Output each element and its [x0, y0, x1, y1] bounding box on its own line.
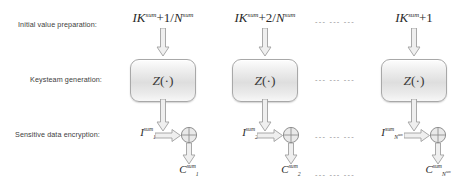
ellipsis-row-keystream: --- --- ---	[315, 75, 355, 84]
iv-numerator-col-n: 1	[426, 10, 433, 25]
iv-base-col-n: IK	[395, 10, 408, 25]
ciphertext-label-col-2: Csum2	[281, 163, 300, 177]
iv-base-sup-col-2: sum	[248, 11, 259, 18]
row-label-sensitive-data-encryption: Sensitive data encryption:	[15, 130, 100, 139]
ciphertext-label-col-n: CsumNsum	[425, 163, 450, 177]
diagram-canvas: Initial value preparation: Keysteam gene…	[0, 0, 466, 188]
xor-gate-col-n[interactable]	[430, 126, 447, 143]
iv-base-sup-col-n: sum	[408, 11, 419, 18]
initial-value-formula-col-1: IKsum+1/Nsum	[133, 10, 194, 26]
ellipsis-row-xor: --- --- ---	[315, 132, 355, 141]
keystream-block-col-2[interactable]: Z(·)	[232, 59, 298, 102]
keystream-block-label-col-1: Z(·)	[152, 73, 173, 89]
keystream-block-label-col-n: Z(·)	[403, 73, 424, 89]
row-label-initial-value-preparation: Initial value preparation:	[18, 20, 97, 29]
iv-base-sup-col-1: sum	[146, 11, 157, 18]
xor-gate-col-1[interactable]	[181, 126, 198, 143]
down-arrow-iv-to-block-col-1	[157, 28, 170, 61]
down-arrow-iv-to-block-col-2	[259, 28, 272, 61]
keystream-block-label-col-2: Z(·)	[254, 73, 275, 89]
xor-gate-col-2[interactable]	[283, 126, 300, 143]
iv-denominator-col-1: N	[174, 10, 183, 25]
iv-base-col-1: IK	[133, 10, 146, 25]
right-arrow-plaintext-to-xor-col-2	[257, 128, 283, 146]
right-arrow-plaintext-to-xor-col-1	[155, 128, 181, 146]
iv-denominator-col-2: N	[276, 10, 285, 25]
iv-base-col-2: IK	[235, 10, 248, 25]
right-arrow-plaintext-to-xor-col-n	[404, 128, 430, 146]
iv-denominator-sup-col-1: sum	[183, 11, 194, 18]
plaintext-label-col-2: Isum2	[242, 126, 258, 140]
initial-value-formula-col-n: IKsum+1	[395, 10, 433, 26]
plaintext-label-col-n: IsumNsum	[381, 126, 403, 140]
down-arrow-iv-to-block-col-n	[408, 28, 421, 61]
ciphertext-sub-col-n: Nsum	[442, 171, 451, 177]
ciphertext-label-col-1: Csum1	[179, 163, 198, 177]
row-label-keystream-generation: Keysteam generation:	[30, 75, 102, 84]
ellipsis-row-ciphertext: --- --- ---	[315, 170, 355, 179]
iv-denominator-sup-col-2: sum	[285, 11, 296, 18]
plaintext-sub-col-n: Nsum	[394, 134, 403, 140]
plaintext-label-col-1: Isum1	[140, 126, 156, 140]
initial-value-formula-col-2: IKsum+2/Nsum	[235, 10, 296, 26]
ellipsis-row-initial-value: --- --- ---	[315, 17, 355, 26]
keystream-block-col-1[interactable]: Z(·)	[130, 59, 196, 102]
keystream-block-col-n[interactable]: Z(·)	[381, 59, 447, 102]
